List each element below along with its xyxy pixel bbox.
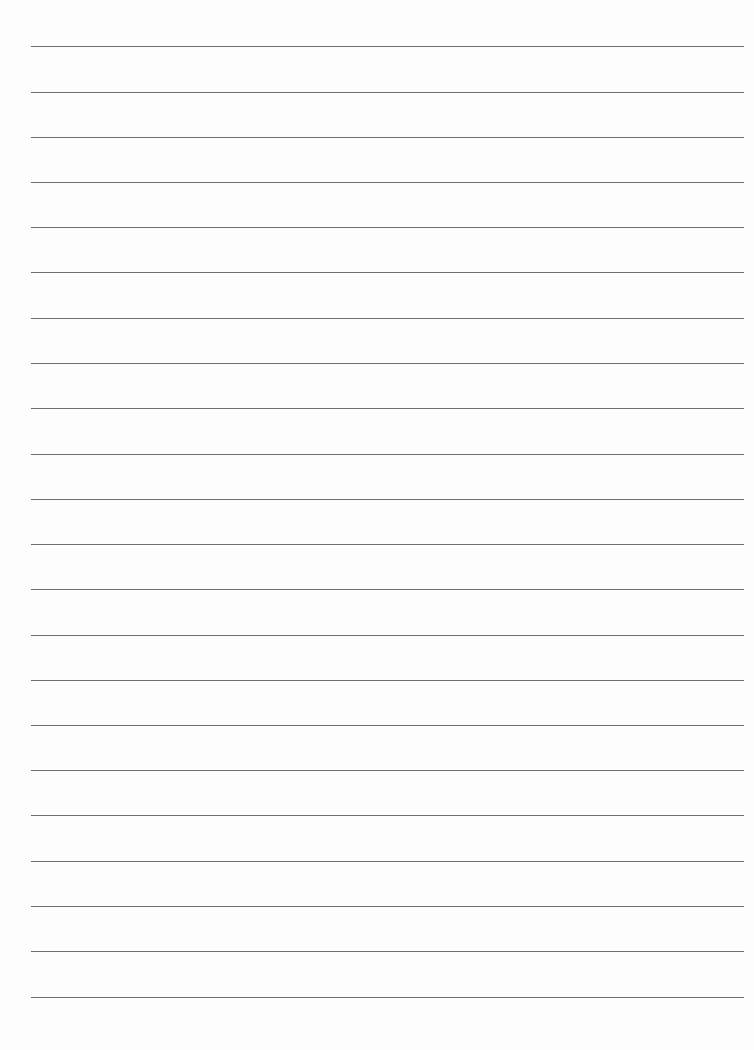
ruled-line	[31, 635, 744, 636]
ruled-line	[31, 544, 744, 545]
ruled-line	[31, 137, 744, 138]
ruled-line	[31, 951, 744, 952]
ruled-line	[31, 589, 744, 590]
ruled-line	[31, 906, 744, 907]
ruled-line	[31, 725, 744, 726]
ruled-line	[31, 680, 744, 681]
ruled-line	[31, 454, 744, 455]
ruled-line	[31, 770, 744, 771]
ruled-line	[31, 92, 744, 93]
ruled-line	[31, 861, 744, 862]
ruled-line	[31, 997, 744, 998]
ruled-line	[31, 46, 744, 47]
ruled-line	[31, 318, 744, 319]
ruled-line	[31, 182, 744, 183]
ruled-line	[31, 272, 744, 273]
ruled-line	[31, 227, 744, 228]
ruled-line	[31, 408, 744, 409]
lined-paper-sheet	[0, 0, 754, 1050]
ruled-line	[31, 815, 744, 816]
ruled-line	[31, 499, 744, 500]
ruled-line	[31, 363, 744, 364]
